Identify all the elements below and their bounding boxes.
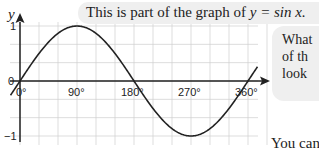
question-line: look	[282, 65, 319, 82]
caption-prefix: This is part of the graph of	[86, 4, 246, 20]
x-tick-0: 0°	[16, 86, 27, 98]
caption-equation: y = sin x.	[250, 4, 306, 20]
y-axis-arrow-icon	[16, 13, 25, 23]
y-tick-minus-1: −1	[4, 130, 17, 142]
x-tick-360: 360°	[235, 86, 258, 98]
question-line: What	[282, 31, 319, 48]
y-tick-1: 1	[10, 20, 16, 32]
caption-bubble: This is part of the graph of y = sin x.	[78, 2, 319, 24]
question-line: of th	[282, 48, 319, 65]
y-tick-0: 0	[8, 75, 14, 87]
footer-text: You can	[271, 135, 319, 152]
x-tick-270: 270°	[178, 86, 201, 98]
x-tick-90: 90°	[68, 86, 85, 98]
x-tick-180: 180°	[121, 86, 144, 98]
question-bubble: What of th look	[272, 26, 319, 101]
grid-lines	[10, 22, 267, 145]
